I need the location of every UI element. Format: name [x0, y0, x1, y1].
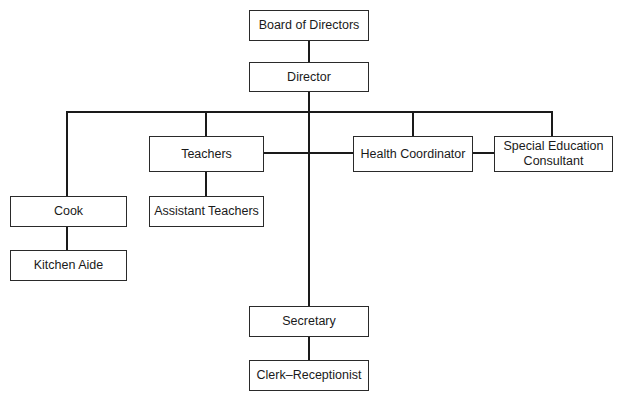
node-label: Director	[287, 70, 331, 85]
node-kitchen-aide: Kitchen Aide	[10, 250, 127, 281]
node-label-line1: Special Education	[503, 139, 603, 154]
connector-to-teachers	[205, 111, 207, 136]
node-label: Board of Directors	[259, 18, 360, 33]
connector-board-director	[308, 40, 310, 63]
node-special-education-consultant: Special Education Consultant	[494, 136, 613, 172]
node-label: Kitchen Aide	[34, 258, 104, 273]
connector-health-special-ed	[472, 152, 495, 154]
connector-to-health	[412, 111, 414, 136]
node-label: Teachers	[181, 147, 232, 162]
node-cook: Cook	[10, 196, 127, 227]
connector-teachers-assistants	[205, 171, 207, 196]
connector-teachers-health	[263, 152, 353, 154]
node-secretary: Secretary	[249, 306, 369, 337]
node-label: Health Coordinator	[361, 147, 466, 162]
node-label: Assistant Teachers	[154, 204, 259, 219]
node-label: Secretary	[282, 314, 336, 329]
connector-director-trunk	[308, 91, 310, 306]
node-assistant-teachers: Assistant Teachers	[149, 196, 264, 227]
node-teachers: Teachers	[149, 136, 264, 172]
connector-to-cook	[66, 111, 68, 196]
node-director: Director	[249, 62, 369, 92]
node-health-coordinator: Health Coordinator	[353, 136, 473, 172]
connector-secretary-clerk	[308, 336, 310, 360]
connector-main-horizontal	[66, 111, 553, 113]
node-label: Clerk–Receptionist	[257, 368, 362, 383]
node-label: Cook	[54, 204, 83, 219]
connector-cook-kitchen-aide	[66, 226, 68, 250]
node-board-of-directors: Board of Directors	[249, 10, 369, 41]
connector-to-special-ed	[551, 111, 553, 136]
node-label-line2: Consultant	[524, 154, 584, 169]
node-clerk-receptionist: Clerk–Receptionist	[249, 360, 369, 391]
